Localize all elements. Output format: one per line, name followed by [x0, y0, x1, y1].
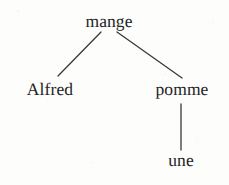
tree-node-pomme: pomme	[156, 81, 209, 99]
edge-root-to-alfred	[58, 32, 101, 76]
tree-node-mange: mange	[85, 13, 132, 31]
edge-root-to-pomme	[117, 32, 182, 78]
tree-node-alfred: Alfred	[27, 81, 73, 99]
tree-node-une: une	[168, 152, 194, 170]
syntax-tree-figure: mange Alfred pomme une	[0, 0, 229, 185]
